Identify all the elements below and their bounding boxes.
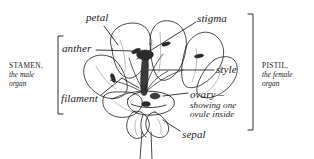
ovule	[142, 101, 150, 106]
label-style: style	[216, 64, 237, 76]
label-stigma: stigma	[197, 13, 227, 25]
ovary-base-dark	[150, 93, 160, 99]
group-label-pistil-line2: the female	[262, 70, 293, 79]
group-label-stamen-line3: organ	[9, 79, 43, 88]
label-petal: petal	[86, 12, 109, 24]
label-ovary: ovary – showing one ovule inside	[190, 89, 236, 120]
label-ovary-line1: ovary –	[190, 89, 236, 101]
label-anther: anther	[62, 43, 91, 55]
pistil-bracket	[248, 14, 253, 130]
group-label-stamen-name: STAMEN,	[9, 61, 43, 70]
group-label-pistil-line3: organ	[262, 79, 293, 88]
label-sepal: sepal	[182, 129, 206, 141]
label-filament: filament	[61, 93, 98, 105]
stem	[140, 132, 152, 159]
group-label-pistil-name: PISTIL,	[262, 61, 293, 70]
label-ovary-line3: ovule inside	[190, 110, 236, 120]
group-label-stamen: STAMEN, the male organ	[9, 61, 43, 89]
flower-diagram-figure: petal stigma anther style filament sepal…	[0, 0, 314, 159]
group-label-pistil: PISTIL, the female organ	[262, 61, 293, 89]
group-label-stamen-line2: the male	[9, 70, 43, 79]
